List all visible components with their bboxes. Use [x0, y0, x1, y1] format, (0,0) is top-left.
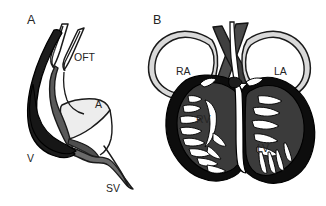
label-left-atrium: LA: [274, 65, 287, 77]
panel-b-letter: B: [153, 13, 161, 27]
panel-a-letter: A: [27, 13, 36, 27]
label-right-atrium: RA: [176, 65, 191, 77]
label-atrium: A: [95, 98, 102, 110]
label-ventricle: V: [27, 152, 34, 164]
heart-development-figure: A B OFT A V SV RA LA RV LV: [0, 0, 326, 206]
label-left-ventricle: LV: [257, 142, 269, 154]
label-oft: OFT: [74, 51, 96, 63]
figure-container: A B OFT A V SV RA LA RV LV: [0, 0, 326, 206]
label-sinus-venosus: SV: [106, 182, 120, 194]
label-right-ventricle: RV: [196, 113, 210, 125]
